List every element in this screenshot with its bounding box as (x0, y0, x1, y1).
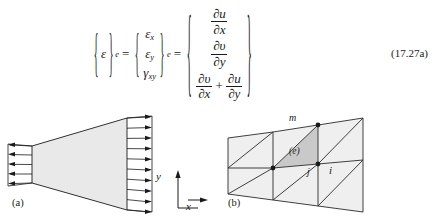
mesh-node-left (271, 166, 276, 171)
right-arrow-line-9 (127, 200, 148, 202)
figure-a-tapered-plate (0, 108, 200, 223)
derivative-dv-dx: ∂υ ∂x (196, 72, 212, 101)
strain-vector-subscript: e (167, 49, 171, 59)
right-arrow-head-2 (145, 125, 152, 129)
strain-component-ex: εx (143, 24, 156, 44)
left-arrow-head-5 (8, 181, 15, 185)
left-load-group (8, 143, 32, 186)
mesh-node-label-m: m (289, 112, 296, 123)
axis-y-arrowhead (175, 170, 180, 178)
equals-sign-1: = (122, 46, 129, 62)
left-arrow-head-1 (8, 143, 15, 147)
right-arrow-head-5 (145, 157, 152, 161)
right-arrow-head-7 (145, 178, 152, 182)
right-arrow-line-1 (127, 117, 148, 118)
left-arrow-head-2 (8, 152, 15, 156)
right-arrow-head-1 (145, 115, 152, 119)
strain-component-ey: εy (143, 44, 156, 64)
left-arrow-head-3 (8, 162, 15, 166)
right-arrow-head-4 (145, 146, 152, 150)
strain-column-vector: { εx εy γxy } e (132, 24, 170, 84)
right-arrow-head-8 (145, 189, 152, 193)
derivative-column-vector: { ∂u ∂x ∂υ ∂y ∂υ ∂x + ∂u ∂y (184, 6, 255, 103)
right-arrow-head-6 (145, 168, 152, 172)
right-arrow-line-10 (127, 210, 148, 212)
mesh-node-j (316, 162, 321, 167)
mesh-node-label-i: i (329, 164, 332, 176)
strain-displacement-equation: { ε } e = { εx εy γxy } e = { ∂u ∂x (92, 2, 322, 106)
derivative-du-dy: ∂u ∂y (226, 72, 243, 101)
right-arrow-head-9 (145, 199, 152, 203)
mesh-node-m (316, 123, 321, 128)
derivative-rows: ∂u ∂x ∂υ ∂y ∂υ ∂x + ∂u ∂y (195, 6, 244, 103)
mesh-cells (228, 118, 363, 212)
derivative-du-dx: ∂u ∂x (211, 6, 228, 38)
equals-sign-2: = (174, 46, 181, 62)
lhs-subscript: e (115, 49, 119, 59)
plate-helper (5, 126, 30, 205)
right-arrows (127, 115, 152, 214)
derivative-dv-dy: ∂υ ∂y (211, 38, 227, 70)
figure-b-triangular-mesh (188, 108, 434, 223)
right-arrow-line-6 (127, 169, 148, 170)
equation-number: (17.27a) (391, 47, 428, 59)
epsilon-symbol: ε (101, 46, 106, 62)
right-arrow-head-10 (145, 210, 152, 214)
right-arrow-line-2 (127, 128, 148, 129)
figure-b-caption: (b) (228, 197, 240, 208)
mesh-node-label-j: j (307, 166, 310, 177)
plus-operator: + (215, 78, 222, 94)
lhs-strain-symbol: { ε } e (92, 46, 119, 62)
right-arrow-line-8 (127, 189, 148, 191)
mesh-element-label-e: (e) (289, 146, 300, 156)
left-arrow-head-4 (8, 172, 15, 176)
strain-component-gxy: γxy (141, 64, 158, 84)
figure-a-caption: (a) (12, 197, 24, 208)
right-arrow-line-5 (127, 159, 148, 160)
strain-components: εx εy γxy (141, 24, 158, 84)
mesh-cell-r2c3 (318, 160, 363, 212)
right-arrow-head-3 (145, 136, 152, 140)
plate-outline (32, 118, 127, 210)
right-load-group (127, 115, 152, 214)
mesh-cell-r2c2 (273, 164, 318, 206)
axis-y-label: y (156, 170, 161, 182)
left-arrows (8, 143, 32, 186)
derivative-shear-sum: ∂υ ∂x + ∂u ∂y (195, 70, 244, 102)
right-arrow-line-7 (127, 179, 148, 180)
